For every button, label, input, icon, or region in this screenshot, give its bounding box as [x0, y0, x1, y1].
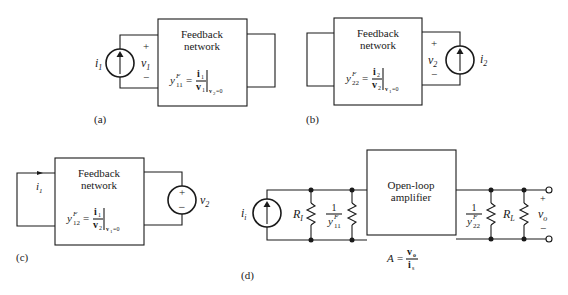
resistor-rl-icon: [520, 188, 528, 242]
svg-text:=: =: [362, 72, 368, 84]
port-voltage: v1: [141, 56, 150, 72]
svg-text:=0: =0: [392, 86, 398, 92]
current-label: i1: [36, 180, 43, 195]
svg-text:s: s: [412, 265, 415, 271]
source-label: ii: [241, 206, 247, 222]
wire: [422, 74, 460, 85]
svg-text:=0: =0: [113, 226, 119, 232]
port-minus: −: [431, 68, 437, 80]
resistor-y11-label: 1 y F 11: [326, 202, 342, 230]
port-plus: +: [431, 37, 437, 49]
panel-a: i1 + v1 − Feedback network y F 11 = i 1 …: [94, 19, 275, 126]
feedback-network-figure: i1 + v1 − Feedback network y F 11 = i 1 …: [0, 0, 568, 295]
wire: [120, 35, 158, 49]
output-terminal-positive: [546, 187, 552, 193]
panel-b: i2 + v2 − Feedback network y F 22 = i 2 …: [306, 18, 487, 126]
svg-text:1: 1: [202, 87, 205, 93]
svg-text:v: v: [372, 79, 377, 90]
svg-text:2: 2: [378, 85, 381, 91]
current-source-icon: [106, 49, 134, 77]
svg-text:i: i: [94, 206, 97, 217]
svg-text:11: 11: [176, 81, 183, 89]
svg-text:v: v: [407, 246, 412, 257]
wire: [120, 77, 158, 88]
current-source-icon: [253, 199, 281, 227]
panel-label: (d): [241, 269, 254, 282]
panel-label: (b): [306, 113, 319, 126]
gain-equation: A = v o i s: [386, 246, 418, 271]
wire: [422, 32, 460, 46]
port-plus: +: [143, 40, 149, 52]
wire: [144, 172, 182, 186]
panel-label: (a): [94, 113, 107, 126]
svg-text:F: F: [72, 210, 78, 218]
parameter-equation: y F 22 = i 2 v 2 v 1 =0: [345, 66, 398, 94]
svg-text:22: 22: [473, 222, 481, 230]
source-label: i1: [95, 56, 102, 72]
svg-text:v: v: [196, 81, 201, 92]
svg-text:11: 11: [334, 222, 341, 230]
box-title: Open-loop: [387, 179, 435, 191]
svg-text:1: 1: [332, 202, 337, 213]
svg-text:v: v: [106, 226, 109, 232]
svg-text:1: 1: [472, 202, 477, 213]
resistor-ri-icon: [307, 188, 315, 243]
output-plus: +: [540, 193, 546, 204]
svg-text:1: 1: [201, 74, 204, 80]
svg-text:1: 1: [98, 212, 101, 218]
source-label: i2: [480, 52, 487, 68]
svg-text:y: y: [466, 215, 472, 227]
box-title: network: [184, 40, 221, 52]
port-minus: −: [143, 71, 149, 83]
port-voltage: v2: [428, 53, 437, 69]
svg-text:o: o: [413, 252, 416, 258]
svg-text:22: 22: [352, 79, 360, 87]
svg-text:v: v: [93, 219, 98, 230]
svg-text:y: y: [327, 215, 333, 227]
current-source-icon: [446, 46, 474, 74]
current-arrow-icon: [37, 171, 43, 175]
svg-text:v: v: [209, 88, 212, 94]
resistor-rl-label: RL: [502, 207, 515, 223]
parameter-equation: y F 11 = i 1 v 1 v 2 =0: [169, 68, 222, 96]
voltage-source-icon: + −: [168, 186, 196, 214]
resistor-y11-icon: [348, 188, 356, 243]
parameter-equation: y F 12 = i 1 v 2 v 1 =0: [66, 206, 119, 234]
output-minus: −: [540, 222, 546, 234]
svg-text:+: +: [179, 186, 185, 198]
panel-d: ii RI 1 y F 11 Open-loop amplifier: [241, 150, 552, 282]
svg-text:=: =: [83, 212, 89, 224]
resistor-y22-label: 1 y F 22: [466, 202, 482, 230]
svg-text:i: i: [373, 66, 376, 77]
box-title: amplifier: [391, 191, 432, 203]
svg-text:v: v: [385, 86, 388, 92]
panel-c: + − v2 i1 Feedback network y F 12 = i 1 …: [16, 158, 209, 264]
svg-text:12: 12: [73, 219, 81, 227]
resistor-y22-icon: [487, 188, 495, 242]
short-circuit-wire: [247, 34, 275, 87]
output-terminal-negative: [546, 236, 552, 242]
resistor-ri-label: RI: [292, 207, 303, 223]
wire: [144, 214, 182, 225]
box-title: Feedback: [78, 167, 121, 179]
panel-label: (c): [16, 251, 29, 264]
box-title: network: [81, 179, 118, 191]
svg-text:A =: A =: [386, 252, 404, 264]
svg-text:F: F: [175, 72, 181, 80]
svg-text:i: i: [408, 259, 411, 270]
output-voltage-label: vo: [538, 207, 547, 223]
svg-text:2: 2: [99, 225, 102, 231]
svg-text:y: y: [345, 72, 351, 84]
svg-text:F: F: [472, 213, 478, 221]
svg-text:i: i: [197, 68, 200, 79]
source-label: v2: [200, 193, 209, 209]
box-title: network: [360, 39, 397, 51]
svg-text:F: F: [333, 213, 339, 221]
box-title: Feedback: [181, 28, 224, 40]
short-circuit-wire: [307, 33, 334, 86]
svg-text:2: 2: [377, 72, 380, 78]
svg-text:=0: =0: [216, 88, 222, 94]
svg-text:y: y: [169, 74, 175, 86]
svg-text:=: =: [186, 74, 192, 86]
box-title: Feedback: [357, 27, 400, 39]
